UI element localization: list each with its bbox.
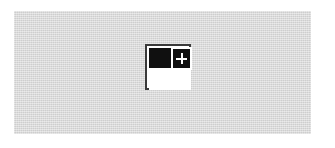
icon-light-block: [149, 69, 191, 90]
plus-vertical-stroke: [181, 53, 183, 64]
plus-badge-icon[interactable]: [171, 47, 192, 70]
image-placeholder-panel[interactable]: [14, 11, 311, 134]
icon-dark-block: [149, 48, 171, 68]
add-image-icon[interactable]: [145, 44, 191, 90]
icon-frame: [145, 44, 191, 90]
screenshot-root: [0, 0, 335, 148]
